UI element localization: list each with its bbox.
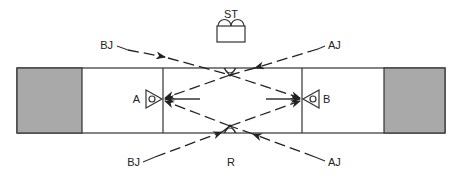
speaker-b-label: B <box>323 93 330 105</box>
aj-bottom-label: AJ <box>328 156 341 168</box>
bj-top-arrow-in <box>128 50 165 57</box>
right-block <box>384 68 445 133</box>
station-dome-right <box>231 20 244 27</box>
speaker-a-label: A <box>133 93 141 105</box>
bj-top-leader <box>117 46 128 50</box>
receiver-label: R <box>227 156 235 168</box>
bj-top-label: BJ <box>100 39 113 51</box>
aj-bottom-leader <box>315 157 325 161</box>
station-body <box>217 26 245 42</box>
left-block <box>17 68 82 133</box>
bj-bottom-label: BJ <box>127 156 140 168</box>
station-dome-left <box>218 20 231 27</box>
aj-top-label: AJ <box>328 39 341 51</box>
aj-top-arrow-in <box>255 49 318 68</box>
station-icon <box>217 20 245 43</box>
station-label: ST <box>224 8 238 20</box>
bj-bottom-leader <box>143 157 155 162</box>
bj-bottom-arrow-in <box>155 132 222 157</box>
aj-bottom-arrow-in <box>253 134 315 157</box>
aj-top-leader <box>318 46 325 49</box>
diagram-canvas: ST A B BJ <box>0 0 460 179</box>
